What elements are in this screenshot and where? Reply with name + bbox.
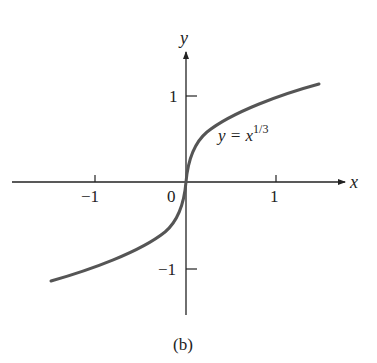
curve-label-exponent: 1/3 xyxy=(253,122,268,136)
curve-label: y = x1/3 xyxy=(216,122,268,145)
y-axis-label: y xyxy=(178,28,188,48)
origin-label: 0 xyxy=(167,187,176,206)
cube-root-plot: y x −1 1 0 1 −1 y = x1/3 (b) xyxy=(0,0,377,363)
x-axis-label: x xyxy=(349,172,358,192)
curve-label-base: y = x xyxy=(216,126,254,145)
y-tick-label-neg1: −1 xyxy=(158,260,176,279)
x-tick-label-1: 1 xyxy=(270,187,279,206)
y-tick-label-1: 1 xyxy=(169,87,178,106)
x-tick-label-neg1: −1 xyxy=(81,187,99,206)
figure-caption: (b) xyxy=(173,335,193,354)
